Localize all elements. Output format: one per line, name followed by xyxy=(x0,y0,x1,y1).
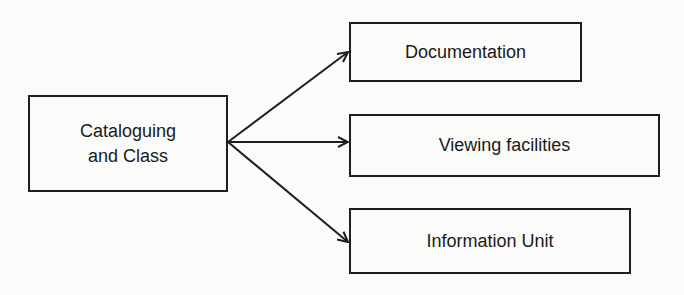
node-documentation: Documentation xyxy=(349,22,582,82)
node-label-line2: and Class xyxy=(80,144,176,169)
node-information-unit: Information Unit xyxy=(349,208,631,274)
node-cataloguing-and-class: Cataloguing and Class xyxy=(28,95,228,192)
node-label: Information Unit xyxy=(426,229,553,254)
node-label: Documentation xyxy=(405,40,526,65)
node-viewing-facilities: Viewing facilities xyxy=(349,114,660,177)
node-label-line1: Cataloguing xyxy=(80,119,176,144)
arrow-to-information-unit xyxy=(228,142,348,242)
node-label: Viewing facilities xyxy=(439,133,571,158)
arrow-to-documentation xyxy=(228,52,348,142)
